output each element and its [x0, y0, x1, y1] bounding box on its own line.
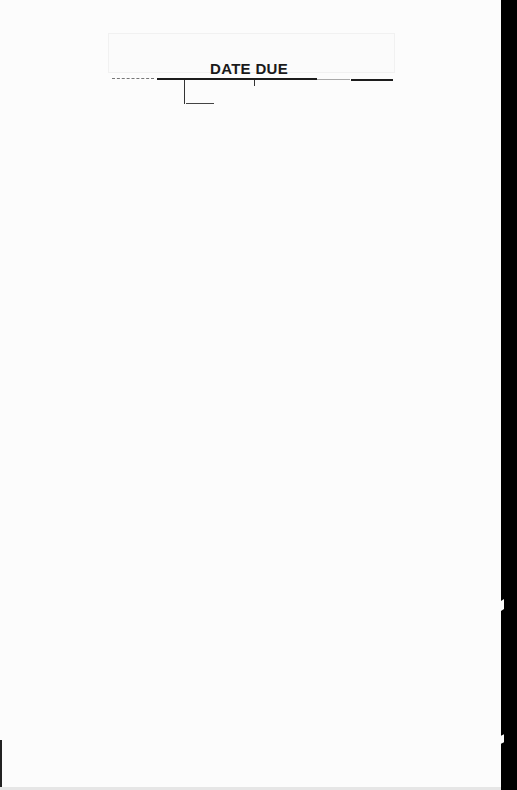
table-column-divider — [184, 80, 185, 104]
scan-left-edge — [0, 740, 2, 790]
date-due-heading: DATE DUE — [210, 60, 288, 77]
header-rule — [157, 78, 317, 80]
scan-right-border — [501, 0, 517, 790]
scan-artifact — [501, 599, 504, 611]
document-page: DATE DUE — [0, 0, 517, 790]
scan-artifact — [501, 734, 504, 744]
table-row-line — [186, 103, 214, 104]
header-rule-faded — [317, 79, 350, 80]
table-column-tick — [254, 80, 255, 86]
header-rule-dashed — [112, 78, 154, 80]
header-rule-right — [351, 79, 393, 81]
